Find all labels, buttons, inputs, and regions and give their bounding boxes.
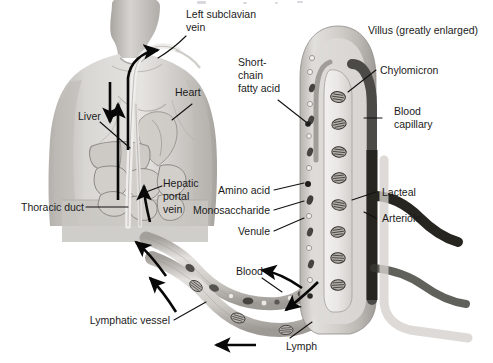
label-blood: Blood bbox=[236, 265, 263, 277]
label-hepatic-portal-vein-line2: portal bbox=[163, 190, 189, 202]
label-hepatic-portal-vein: Hepatic bbox=[163, 177, 199, 189]
label-lymphatic-vessel: Lymphatic vessel bbox=[90, 314, 170, 326]
label-lacteal: Lacteal bbox=[382, 186, 416, 198]
diagram-canvas: Left subclavian vein Heart Liver Thoraci… bbox=[0, 0, 493, 363]
label-monosaccharide: Monosaccharide bbox=[193, 204, 270, 216]
label-short-chain-fatty-acid-line3: fatty acid bbox=[238, 82, 280, 94]
amino-acid-particle bbox=[305, 181, 311, 187]
lipid-absorption-diagram: Left subclavian vein Heart Liver Thoraci… bbox=[0, 0, 493, 363]
label-short-chain-fatty-acid: Short- bbox=[238, 56, 267, 68]
label-blood-capillary: Blood bbox=[394, 105, 421, 117]
label-arteriole: Arteriole bbox=[382, 212, 421, 224]
label-amino-acid: Amino acid bbox=[218, 184, 270, 196]
label-left-subclavian-vein-line2: vein bbox=[186, 21, 205, 33]
venule-particle bbox=[306, 213, 311, 218]
label-blood-capillary-line2: capillary bbox=[394, 118, 433, 130]
label-villus-title: Villus (greatly enlarged) bbox=[368, 24, 478, 36]
label-left-subclavian-vein: Left subclavian bbox=[186, 8, 256, 20]
label-chylomicron: Chylomicron bbox=[380, 64, 439, 76]
lacteal-vessel bbox=[324, 70, 352, 312]
label-lymph: Lymph bbox=[286, 340, 317, 352]
label-venule: Venule bbox=[238, 225, 270, 237]
label-short-chain-fatty-acid-line2: chain bbox=[238, 69, 263, 81]
label-thoracic-duct: Thoracic duct bbox=[21, 201, 84, 213]
label-liver: Liver bbox=[78, 110, 101, 122]
label-heart: Heart bbox=[175, 86, 201, 98]
label-hepatic-portal-vein-line3: vein bbox=[163, 203, 182, 215]
